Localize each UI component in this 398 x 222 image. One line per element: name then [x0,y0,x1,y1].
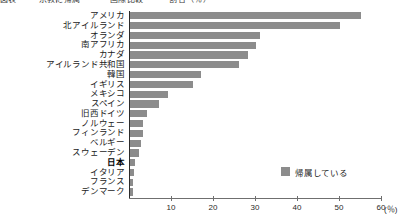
x-axis-tick-label: 10 [159,203,183,212]
legend-swatch-icon [281,167,290,176]
bar [130,159,135,166]
header-fragment-0: 図表 [0,0,17,3]
bar-row: スウェーデン [0,148,398,158]
x-axis-tick [339,196,340,201]
bar-row: スペイン [0,99,398,109]
bar [130,81,193,88]
legend-label: 帰属している [295,166,348,178]
bar-row: メキシコ [0,89,398,99]
bar [130,91,168,98]
bar [130,42,256,49]
bar [130,100,159,107]
bar-row: オランダ [0,31,398,41]
x-axis-tick [171,196,172,201]
bar [130,188,133,195]
bar [130,110,147,117]
x-axis-tick [297,196,298,201]
bar-row: アメリカ [0,11,398,21]
bar-row: イギリス [0,80,398,90]
bar-row: アイルランド共和国 [0,60,398,70]
x-axis-unit-label: (％) [384,203,397,214]
x-axis-tick [381,196,382,201]
bar [130,32,260,39]
header-fragment-1: 宗教に帰属 [39,0,81,3]
bar-row-label: スウェーデン [0,148,125,158]
x-axis-tick-label: 20 [201,203,225,212]
x-axis-tick [213,196,214,201]
legend: 帰属している [281,166,348,177]
bar [130,71,201,78]
bar [130,120,143,127]
bar [130,179,133,186]
bar-row: フランス [0,177,398,187]
x-axis-tick-label: 40 [285,203,309,212]
bar-row: ノルウェー [0,119,398,129]
bar [130,12,361,19]
bar-row-label: デンマーク [0,187,125,197]
bar-row: 南アフリカ [0,40,398,50]
bar-row: フィンランド [0,128,398,138]
bar-row-label: アイルランド共和国 [0,60,125,70]
bar [130,169,134,176]
bar [130,130,143,137]
bar-row: 北アイルランド [0,21,398,31]
bar [130,61,239,68]
bar-chart: 図表宗教に帰属国際比較割合（％） アメリカ北アイルランドオランダ南アフリカカナダ… [0,0,398,222]
bar [130,22,340,29]
bar-row: ベルギー [0,138,398,148]
clipped-header-text: 図表宗教に帰属国際比較割合（％） [0,0,398,3]
bar [130,149,139,156]
x-axis-tick [255,196,256,201]
x-axis-tick-label: 50 [327,203,351,212]
bar [130,140,141,147]
bar [130,51,248,58]
header-fragment-2: 国際比較 [110,0,143,3]
x-axis-tick-label: 30 [243,203,267,212]
header-fragment-3: 割合（％） [169,0,211,3]
bar-row: 韓国 [0,70,398,80]
bar-row: 旧西ドイツ [0,109,398,119]
